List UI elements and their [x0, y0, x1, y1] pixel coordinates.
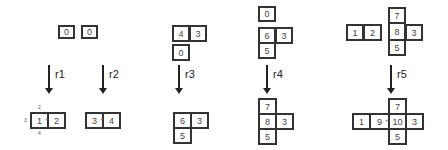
- arrow-r1: [48, 65, 50, 89]
- tile-r4-after-5: 5: [258, 128, 277, 145]
- label-r3: r3: [185, 68, 195, 80]
- join-marker-r2: +: [100, 116, 104, 122]
- label-r4: r4: [273, 68, 283, 80]
- arrow-r4: [266, 65, 268, 89]
- label-r5: r5: [397, 68, 407, 80]
- port-top: 2: [38, 104, 41, 110]
- join-marker-r1: +: [45, 116, 49, 122]
- tile-r4-before-5: 5: [258, 42, 276, 59]
- tile-r5-after-5: 5: [388, 128, 407, 145]
- tile-r2-before-0: 0: [81, 25, 98, 39]
- tile-r3-before-3: 3: [189, 25, 207, 42]
- arrow-r2: [102, 65, 104, 89]
- tile-r4-before-0: 0: [258, 6, 276, 22]
- tile-r5-before-1: 1: [346, 24, 364, 41]
- tile-r1-before-0: 0: [58, 25, 75, 39]
- tile-r5-after-3: 3: [405, 113, 424, 130]
- tile-r5-before-5: 5: [388, 39, 406, 56]
- tile-r5-before-2: 2: [363, 24, 382, 41]
- tile-r3-before-0: 0: [172, 44, 190, 61]
- label-r1: r1: [55, 68, 65, 80]
- tile-r1-after-2: 2: [47, 112, 66, 129]
- tile-r5-before-3: 3: [405, 24, 423, 41]
- tile-r3-after-5: 5: [173, 127, 192, 144]
- tile-r4-after-3: 3: [275, 113, 294, 130]
- arrow-r5: [390, 65, 392, 89]
- arrow-r3: [178, 65, 180, 89]
- tile-r2-after-4: 4: [102, 112, 121, 129]
- label-r2: r2: [109, 68, 119, 80]
- join-marker-r5: +: [385, 117, 389, 123]
- tile-r4-before-3: 3: [275, 27, 293, 44]
- tile-r3-after-3: 3: [190, 112, 209, 129]
- tile-r3-before-4: 4: [172, 25, 190, 42]
- port-left: 3: [24, 117, 27, 123]
- port-bottom: 4: [38, 130, 41, 136]
